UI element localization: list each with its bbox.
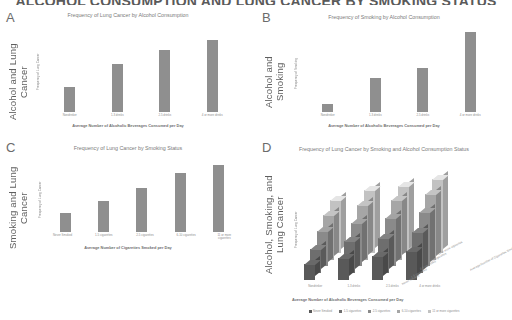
bar-group: [322, 28, 333, 112]
panel-d-legend: Never Smoked1-5 cigarettes2-5 cigarettes…: [256, 309, 512, 313]
tick-label: 1-3 drinks: [99, 114, 135, 117]
panel-b: B Alcohol and Smoking Frequency of Smoki…: [256, 8, 512, 138]
bar-group: [175, 158, 186, 232]
tick-label: 1-5 cigarettes: [88, 234, 120, 241]
tick-label: 2-5 drinks: [378, 285, 406, 288]
bar-group: [98, 158, 109, 232]
panel-c-xlabel: Average Number of Cigarettes Smoked per …: [0, 245, 256, 250]
tick-label: Nondrinker: [310, 114, 346, 117]
panel-b-ylabel: Frequency of Smoking: [294, 42, 298, 106]
bar-group: [417, 28, 428, 112]
tick-label: 1-3 drinks: [340, 285, 368, 288]
bar-3d: [406, 251, 417, 280]
panel-c-bars: [46, 158, 238, 232]
panel-d-ticks: Nondrinker 1-3 drinks 2-5 drinks 4 or mo…: [296, 285, 448, 288]
bar: [64, 87, 75, 112]
tick-label: 1-3 drinks: [357, 114, 393, 117]
legend-label: Never Smoked: [313, 309, 332, 313]
legend-swatch: [309, 310, 312, 313]
legend-swatch: [339, 310, 342, 313]
bar-3d-side: [436, 186, 441, 256]
tick-label: Nondrinker: [52, 114, 88, 117]
panel-d-side-label: Alcohol, Smoking, and Lung Cancer: [264, 166, 286, 284]
panel-a-ylabel: Frequency of Lung Cancer: [36, 36, 40, 108]
panel-c-plot: [46, 158, 238, 232]
legend-label: 1-5 cigarettes: [344, 309, 362, 313]
tick-label: 11 or more cigarettes: [211, 234, 237, 241]
bar: [60, 213, 71, 232]
panel-b-ticks: Nondrinker 1-3 drinks 2-5 drinks 4 or mo…: [304, 114, 494, 117]
panel-c: C Smoking and Lung Cancer Frequency of L…: [0, 140, 256, 260]
bar-group: [213, 158, 224, 232]
bar: [112, 64, 123, 112]
bar-group: [112, 30, 123, 112]
panel-b-title: Frequency of Smoking by Alcohol Consumpt…: [256, 14, 512, 22]
bar: [322, 104, 333, 112]
legend-swatch: [397, 310, 400, 313]
panel-a: A Alcohol and Lung Cancer Frequency of L…: [0, 8, 256, 138]
bar-group: [136, 158, 147, 232]
panel-b-side-label: Alcohol and Smoking: [264, 42, 286, 122]
bar-3d-side: [368, 197, 373, 255]
bar-group: [465, 28, 476, 112]
legend-swatch: [428, 310, 431, 313]
tick-label: 4 or more drinks: [452, 114, 488, 117]
bar-3d: [372, 256, 383, 280]
bar-group: [207, 30, 218, 112]
panel-d-ylabel: Frequency of Lung Cancer: [294, 202, 298, 258]
bar-3d-side: [430, 204, 435, 262]
panel-a-title: Frequency of Lung Cancer by Alcohol Cons…: [0, 12, 256, 20]
panel-b-bars: [304, 28, 494, 112]
panel-d-xlabel: Average Number of Alcoholic Beverages Co…: [256, 297, 512, 302]
bar: [159, 50, 170, 112]
bar: [175, 173, 186, 232]
bar: [417, 68, 428, 112]
bar: [207, 40, 218, 112]
panel-d-title: Frequency of Lung Cancer by Smoking and …: [256, 146, 512, 154]
panel-c-side-label: Smoking and Lung Cancer: [8, 162, 30, 254]
tick-label: 2-5 drinks: [147, 114, 183, 117]
legend-item[interactable]: 11 or more cigarettes: [428, 309, 460, 313]
bar-group: [64, 30, 75, 112]
bar-group: [370, 28, 381, 112]
legend-item[interactable]: 6-10 cigarettes: [397, 309, 421, 313]
panel-b-xlabel: Average Number of Alcoholic Beverages Co…: [256, 123, 512, 128]
tick-label: 6-10 cigarettes: [170, 234, 202, 241]
bar: [136, 188, 147, 232]
panel-a-ticks: Nondrinker 1-3 drinks 2-5 drinks 4 or mo…: [46, 114, 236, 117]
panel-c-ticks: Never Smoked 1-5 cigarettes 2-5 cigarett…: [42, 234, 242, 241]
panel-c-title: Frequency of Lung Cancer by Smoking Stat…: [0, 145, 256, 153]
bar-3d: [338, 258, 349, 280]
panel-d: D Alcohol, Smoking, and Lung Cancer Freq…: [256, 140, 512, 320]
legend-label: 2-5 cigarettes: [373, 309, 391, 313]
legend-label: 6-10 cigarettes: [402, 309, 421, 313]
bar-3d: [304, 264, 315, 280]
tick-label: Nondrinker: [301, 285, 329, 288]
bar: [370, 78, 381, 112]
tick-label: 2-5 cigarettes: [129, 234, 161, 241]
panel-b-plot: [304, 28, 494, 112]
tick-label: 4 or more drinks: [417, 285, 443, 288]
panel-a-xlabel: Average Number of Alcoholic Beverages Co…: [0, 123, 256, 128]
bar-3d-side: [443, 171, 448, 249]
panel-a-bars: [46, 30, 236, 112]
legend-item[interactable]: 1-5 cigarettes: [339, 309, 361, 313]
bar-group: [159, 30, 170, 112]
bar: [213, 165, 224, 232]
bar: [465, 32, 476, 112]
bar-3d-side: [402, 192, 407, 255]
panel-a-side-label: Alcohol and Lung Cancer: [8, 38, 30, 126]
legend-swatch: [368, 310, 371, 313]
legend-item[interactable]: 2-5 cigarettes: [368, 309, 390, 313]
tick-label: Never Smoked: [47, 234, 79, 241]
tick-label: 2-5 drinks: [405, 114, 441, 117]
page-title: ALCOHOL CONSUMPTION AND LUNG CANCER BY S…: [0, 0, 512, 5]
legend-item[interactable]: Never Smoked: [309, 309, 333, 313]
panel-a-plot: [46, 30, 236, 112]
panel-c-ylabel: Frequency of Lung Cancer: [38, 170, 42, 230]
legend-label: 11 or more cigarettes: [432, 309, 459, 313]
bar-group: [60, 158, 71, 232]
tick-label: 4 or more drinks: [194, 114, 230, 117]
bar: [98, 201, 109, 232]
